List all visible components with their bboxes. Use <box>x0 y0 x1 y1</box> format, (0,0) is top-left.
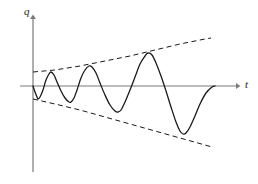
q-axis-label: q <box>24 6 30 17</box>
plot-canvas <box>0 0 258 184</box>
t-axis-label: t <box>245 79 248 90</box>
curves-group <box>33 38 215 147</box>
oscillation-figure: q t <box>0 0 258 184</box>
upper-envelope-curve <box>33 38 211 72</box>
